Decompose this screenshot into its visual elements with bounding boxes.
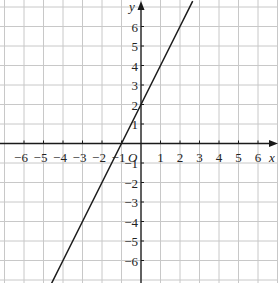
y-tick-label: 1: [132, 117, 139, 132]
y-tick-label: 4: [132, 59, 139, 74]
y-tick-label: −5: [124, 234, 138, 249]
y-tick-label: 5: [132, 39, 139, 54]
x-tick-label: 1: [157, 150, 164, 165]
x-axis-label: x: [268, 150, 275, 165]
y-axis-label: y: [127, 0, 135, 14]
x-tick-label: 2: [177, 150, 184, 165]
x-tick-label: −4: [53, 150, 67, 165]
x-tick-label: 4: [216, 150, 223, 165]
x-tick-label: −5: [34, 150, 48, 165]
y-tick-label: 3: [132, 78, 139, 93]
x-tick-label: −2: [92, 150, 106, 165]
y-tick-label: 2: [132, 98, 139, 113]
x-tick-label: −6: [14, 150, 28, 165]
x-axis-arrow-icon: [269, 140, 278, 147]
y-tick-label: −2: [124, 176, 138, 191]
y-tick-label: −4: [124, 215, 138, 230]
x-tick-label: −3: [73, 150, 87, 165]
coordinate-plane: −6−5−4−3−2−1123456−6−5−4−3−2−1123456 x y…: [0, 0, 278, 283]
y-axis-arrow-icon: [138, 1, 145, 10]
y-tick-label: 6: [132, 20, 139, 35]
x-tick-label: 5: [235, 150, 242, 165]
y-tick-label: −3: [124, 195, 138, 210]
y-tick-label: −6: [124, 254, 138, 269]
x-tick-label: 3: [196, 150, 203, 165]
x-tick-label: 6: [255, 150, 262, 165]
grid-lines: [0, 0, 278, 283]
origin-label: O: [128, 150, 138, 165]
